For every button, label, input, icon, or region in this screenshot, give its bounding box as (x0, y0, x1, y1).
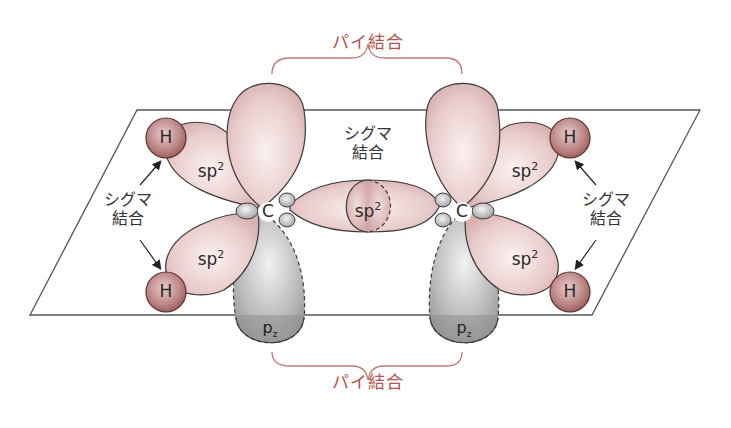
hydrogen-label-bottom-left: H (154, 281, 178, 301)
sigma-text-line2: 結合 (98, 209, 158, 228)
back-lobe (279, 213, 295, 227)
sigma-text-line1: シグマ (576, 190, 636, 209)
pi-bond-label-top: パイ結合 (318, 32, 418, 52)
sigma-text-line2: 結合 (338, 143, 398, 162)
pz-label-right: pz (449, 318, 479, 340)
sp2-label-left-lower: sp2 (186, 248, 236, 269)
sp2-label-center: sp2 (343, 200, 393, 221)
back-lobe (279, 193, 295, 207)
sigma-text-line1: シグマ (98, 190, 158, 209)
sigma-bond-label-center: シグマ 結合 (338, 124, 398, 162)
pz-label-left: pz (255, 318, 285, 340)
hydrogen-label-top-right: H (558, 127, 582, 147)
sp2-label-left-upper: sp2 (186, 160, 236, 181)
hydrogen-label-bottom-right: H (558, 281, 582, 301)
pi-bond-label-bottom: パイ結合 (318, 372, 418, 392)
sigma-text-line1: シグマ (338, 124, 398, 143)
hydrogen-label-top-left: H (154, 127, 178, 147)
sp2-label-right-upper: sp2 (500, 160, 550, 181)
sigma-text-line2: 結合 (576, 209, 636, 228)
back-lobe (435, 213, 451, 227)
carbon-label-right: C (450, 201, 474, 221)
sigma-bond-label-right: シグマ 結合 (576, 190, 636, 228)
sigma-bond-label-left: シグマ 結合 (98, 190, 158, 228)
back-lobe (236, 203, 258, 219)
back-lobe (435, 193, 451, 207)
back-lobe (472, 203, 494, 219)
carbon-label-left: C (256, 201, 280, 221)
sp2-label-right-lower: sp2 (500, 248, 550, 269)
